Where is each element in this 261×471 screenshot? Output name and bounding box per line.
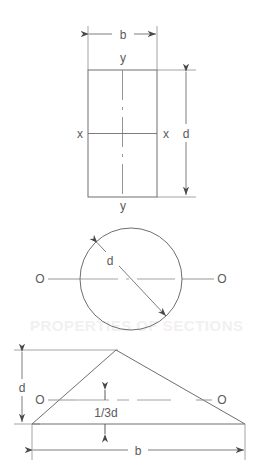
rect-axis-label-y-bottom: y <box>120 199 126 213</box>
circle-axis-label-o-left: O <box>35 272 44 286</box>
circle-section: d O O <box>35 228 226 330</box>
cross-sections-diagram: b y x x y d PROPERTIES OF SECTIONS <box>0 0 261 471</box>
triangle-outline <box>32 350 245 424</box>
rect-height-label: d <box>183 127 190 141</box>
circle-diameter-label: d <box>107 254 114 268</box>
triangle-centroid-height-label: 1/3d <box>94 406 117 420</box>
rect-axis-label-x-right: x <box>163 127 169 141</box>
rect-width-label: b <box>120 28 127 42</box>
rect-axis-label-y-top: y <box>120 51 126 65</box>
rectangle-section: b y x x y d <box>77 26 196 213</box>
circle-axis-label-o-right: O <box>217 272 226 286</box>
triangle-base-label: b <box>135 444 142 458</box>
page-bleed-through-artifact: PROPERTIES OF SECTIONS <box>30 317 244 334</box>
triangle-axis-label-o-right: O <box>217 393 226 407</box>
triangle-height-label: d <box>19 381 26 395</box>
triangle-section: d O O 1/3d b <box>13 350 245 460</box>
rect-axis-label-x-left: x <box>77 127 83 141</box>
ghost-text-line: PROPERTIES OF SECTIONS <box>30 317 244 334</box>
figure-canvas: b y x x y d PROPERTIES OF SECTIONS <box>0 0 261 471</box>
triangle-axis-label-o-left: O <box>35 393 44 407</box>
